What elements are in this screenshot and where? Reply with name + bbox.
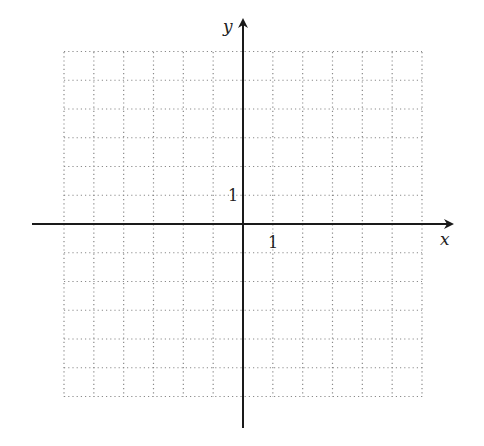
x-axis-label: x (440, 229, 450, 249)
x-unit-tick-label: 1 (268, 233, 278, 252)
y-unit-tick-label: 1 (228, 186, 238, 205)
coordinate-plane: x y 1 1 (0, 0, 484, 446)
y-axis-label: y (222, 16, 233, 36)
